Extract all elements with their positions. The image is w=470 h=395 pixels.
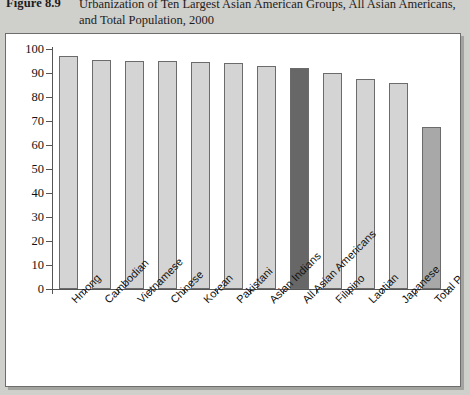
figure-number: Figure 8.9 [6,0,61,11]
y-axis-tick [46,193,52,194]
bar [356,79,376,289]
y-axis-tick-label: 60 [10,140,44,150]
y-axis-tick-label: 0 [10,284,44,294]
bar [191,62,211,289]
figure-header: Figure 8.9 Urbanization of Ten Largest A… [0,0,470,32]
y-axis-tick-label: 20 [10,236,44,246]
y-axis-line [52,47,53,291]
y-axis-tick [46,121,52,122]
figure-caption: Urbanization of Ten Largest Asian Americ… [79,0,467,28]
y-axis-tick-label: 30 [10,212,44,222]
y-axis-labels: 0102030405060708090100 [6,34,44,386]
y-axis-tick-label: 80 [10,92,44,102]
bar [224,63,244,289]
y-axis-tick-label: 90 [10,68,44,78]
y-axis-tick [46,49,52,50]
y-axis-tick [46,241,52,242]
y-axis-tick-label: 70 [10,116,44,126]
y-axis-tick [46,73,52,74]
bar-chart: 0102030405060708090100 HmongCambodianVie… [6,34,460,386]
bar [389,83,409,289]
y-axis-tick-label: 50 [10,164,44,174]
y-axis-tick [46,265,52,266]
y-axis-tick-label: 40 [10,188,44,198]
x-axis-tick [52,289,53,294]
bar [92,60,112,289]
bar [59,56,79,289]
y-axis-tick-label: 100 [10,44,44,54]
y-axis-tick-label: 10 [10,260,44,270]
y-axis-tick [46,217,52,218]
y-axis-tick [46,97,52,98]
y-axis-tick [46,145,52,146]
chart-panel: 0102030405060708090100 HmongCambodianVie… [5,33,461,387]
bar [125,61,145,289]
y-axis-tick [46,169,52,170]
bar [158,61,178,289]
bar [257,66,277,289]
